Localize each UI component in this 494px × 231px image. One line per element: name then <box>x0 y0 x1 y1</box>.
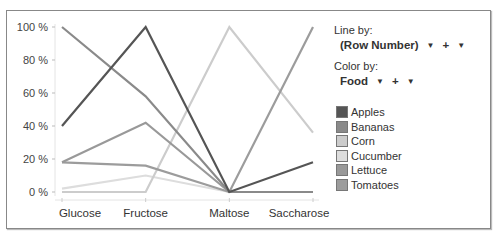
legend: ApplesBananasCornCucumberLettuceTomatoes <box>336 105 402 192</box>
legend-label: Tomatoes <box>351 179 399 191</box>
line-by-add-dropdown-icon[interactable]: ▼ <box>457 41 465 50</box>
legend-label: Corn <box>351 135 375 147</box>
x-tick-label: Glucose <box>59 207 101 219</box>
y-tick-label: 100 % <box>17 21 48 33</box>
series-line-apples[interactable] <box>62 27 313 192</box>
legend-swatch <box>336 106 348 118</box>
legend-label: Cucumber <box>351 150 402 162</box>
color-by-add-icon[interactable]: + <box>392 75 399 87</box>
legend-label: Lettuce <box>351 164 387 176</box>
legend-label: Bananas <box>351 121 394 133</box>
x-tick-label: Maltose <box>209 207 249 219</box>
y-tick-label: 80 % <box>23 54 48 66</box>
legend-item-bananas[interactable]: Bananas <box>336 120 402 135</box>
legend-item-apples[interactable]: Apples <box>336 105 402 120</box>
color-by-dropdown-icon[interactable]: ▼ <box>376 77 384 86</box>
line-chart: 0 %20 %40 %60 %80 %100 %GlucoseFructoseM… <box>0 0 330 231</box>
legend-item-corn[interactable]: Corn <box>336 134 402 149</box>
legend-item-tomatoes[interactable]: Tomatoes <box>336 178 402 193</box>
line-by-value[interactable]: (Row Number) <box>340 39 419 51</box>
legend-item-lettuce[interactable]: Lettuce <box>336 163 402 178</box>
color-by-value[interactable]: Food <box>340 75 368 87</box>
settings-panel: Line by: (Row Number) ▼ + ▼ Color by: Fo… <box>334 24 484 96</box>
line-by-selector[interactable]: (Row Number) ▼ + ▼ <box>340 39 484 51</box>
legend-swatch <box>336 121 348 133</box>
color-by-add-dropdown-icon[interactable]: ▼ <box>407 77 415 86</box>
x-tick-label: Saccharose <box>269 207 330 219</box>
legend-swatch <box>336 164 348 176</box>
line-by-label: Line by: <box>334 24 484 36</box>
y-tick-label: 40 % <box>23 120 48 132</box>
y-tick-label: 60 % <box>23 87 48 99</box>
legend-swatch <box>336 150 348 162</box>
legend-swatch <box>336 179 348 191</box>
legend-label: Apples <box>351 106 385 118</box>
color-by-selector[interactable]: Food ▼ + ▼ <box>340 75 484 87</box>
legend-swatch <box>336 135 348 147</box>
color-by-label: Color by: <box>334 60 484 72</box>
x-tick-label: Fructose <box>123 207 168 219</box>
series-line-lettuce[interactable] <box>62 123 313 192</box>
line-by-dropdown-icon[interactable]: ▼ <box>427 41 435 50</box>
y-tick-label: 20 % <box>23 153 48 165</box>
legend-item-cucumber[interactable]: Cucumber <box>336 149 402 164</box>
y-tick-label: 0 % <box>29 186 48 198</box>
line-by-add-icon[interactable]: + <box>443 39 450 51</box>
